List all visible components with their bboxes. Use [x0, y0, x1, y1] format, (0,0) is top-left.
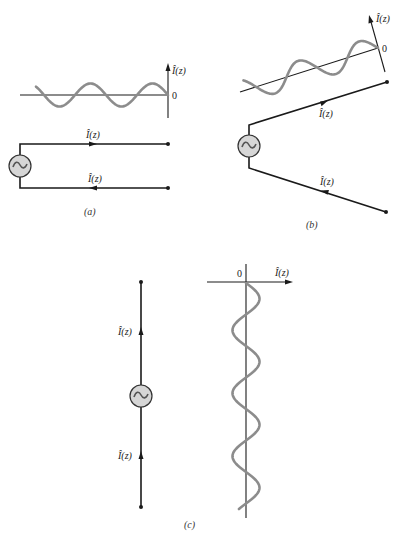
- axis-label-a: Î(z): [171, 65, 187, 77]
- current-label-top-b: Î(z): [318, 108, 334, 120]
- axis-label-b: Î(z): [375, 13, 391, 25]
- wire-end-bottom-b: [384, 210, 388, 214]
- caption-c: (c): [184, 519, 196, 531]
- current-label-bottom-c: Î(z): [117, 450, 133, 462]
- current-arrow-up-icon: [139, 451, 144, 459]
- panel-c: Î(z) Î(z) 0 Î(z) (c): [117, 264, 293, 531]
- current-arrow-right-icon: [89, 142, 97, 147]
- antenna-diagram: Î(z) 0 Î(z) Î(z) (a) Î(z) 0 Î(: [0, 0, 402, 537]
- wire-end-bottom-a: [166, 186, 170, 190]
- current-arrow-left-icon: [89, 186, 97, 191]
- axis-arrow-icon: [285, 280, 293, 285]
- wire-top-b: [249, 82, 387, 135]
- wire-bottom-b: [249, 157, 386, 212]
- current-label-bottom-b: Î(z): [319, 176, 335, 188]
- origin-label-b: 0: [382, 43, 387, 54]
- z-axis-b: [240, 48, 378, 92]
- panel-b: Î(z) 0 Î(z) Î(z) (b): [238, 13, 391, 231]
- current-label-top-c: Î(z): [117, 326, 133, 338]
- current-arrow-up-icon: [139, 327, 144, 335]
- current-label-bottom-a: Î(z): [87, 173, 103, 185]
- wire-end-top-a: [166, 142, 170, 146]
- caption-b: (b): [306, 219, 318, 231]
- origin-label-a: 0: [172, 90, 177, 101]
- dipole-end-top: [139, 280, 143, 284]
- dipole-end-bottom: [139, 505, 143, 509]
- current-arrow-icon: [320, 100, 328, 106]
- axis-arrow-icon: [166, 63, 171, 71]
- origin-label-c: 0: [237, 268, 242, 279]
- axis-label-c: Î(z): [274, 267, 290, 279]
- current-label-top-a: Î(z): [85, 129, 101, 141]
- axis-arrow-icon: [369, 15, 374, 24]
- caption-a: (a): [84, 206, 96, 218]
- current-wave-b: [243, 41, 378, 94]
- wire-end-top-b: [385, 80, 389, 84]
- wire-top-a: [20, 144, 168, 155]
- panel-a: Î(z) 0 Î(z) Î(z) (a): [9, 63, 187, 218]
